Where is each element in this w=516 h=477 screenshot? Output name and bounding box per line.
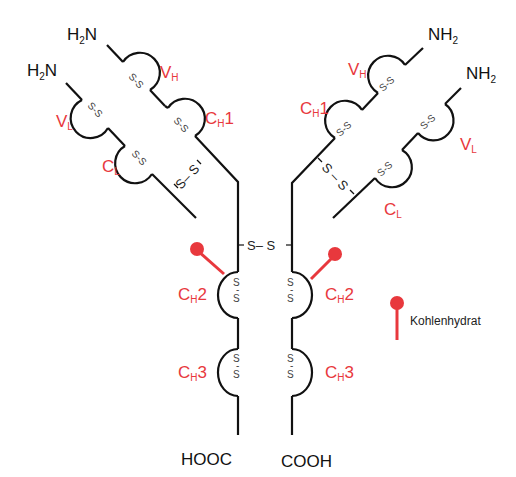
label-cl-right: CL xyxy=(384,200,402,220)
svg-text:S: S xyxy=(233,369,240,380)
label-vh-left: VH xyxy=(160,63,179,83)
antibody-diagram: S-S S-S S - S S - S S-S S-S S– S xyxy=(0,0,516,477)
carbohydrate-pin-icon xyxy=(390,296,404,340)
svg-text:S: S xyxy=(287,369,294,380)
svg-text:S – S: S – S xyxy=(319,160,352,194)
terminus-right-light-n: NH2 xyxy=(466,64,497,85)
legend: Kohlenhydrat xyxy=(390,296,481,340)
carbohydrate-left xyxy=(190,242,224,274)
label-ch3-left: CH3 xyxy=(178,363,207,383)
svg-text:S-S: S-S xyxy=(334,119,354,139)
ch2-domain-right xyxy=(292,272,312,318)
legend-carbohydrate-label: Kohlenhydrat xyxy=(410,314,481,328)
svg-text:S-S: S-S xyxy=(130,148,150,168)
label-ch3-right: CH3 xyxy=(325,363,354,383)
terminus-left-c: HOOC xyxy=(181,450,232,469)
svg-text:S-S: S-S xyxy=(377,74,397,94)
ch3-domain-right xyxy=(292,349,312,396)
terminus-left-heavy-n: H2N xyxy=(67,25,97,46)
label-ch2-left: CH2 xyxy=(178,285,207,305)
label-ch1-left: CH1 xyxy=(205,109,234,129)
left-light-chain: S-S S-S xyxy=(66,83,196,218)
svg-text:S– S: S– S xyxy=(172,161,202,192)
right-light-chain: S-S S-S xyxy=(333,88,461,218)
svg-text:S-S: S-S xyxy=(86,100,106,120)
label-ch2-right: CH2 xyxy=(325,285,354,305)
left-heavy-light-disulfide: S– S xyxy=(172,160,202,192)
label-vh-right: VH xyxy=(348,60,367,80)
right-heavy-light-disulfide: S – S xyxy=(318,158,354,194)
hinge-disulfide: S– S xyxy=(238,238,292,253)
svg-text:S-S: S-S xyxy=(418,112,438,132)
terminus-right-heavy-n: NH2 xyxy=(428,25,459,46)
terminus-right-c: COOH xyxy=(281,452,332,471)
svg-text:S-S: S-S xyxy=(127,71,147,91)
svg-text:S– S: S– S xyxy=(247,238,276,253)
label-ch1-right: CH1 xyxy=(300,99,329,119)
label-vl-right: VL xyxy=(460,135,477,155)
terminus-left-light-n: H2N xyxy=(27,61,57,82)
svg-text:S: S xyxy=(233,293,240,304)
svg-text:S-S: S-S xyxy=(375,159,395,179)
carbohydrate-right xyxy=(311,247,342,279)
svg-text:S: S xyxy=(287,293,294,304)
svg-text:S-S: S-S xyxy=(172,115,192,135)
left-heavy-chain: S-S S-S S - S S - S xyxy=(107,45,240,435)
label-cl-left: CL xyxy=(102,157,120,177)
